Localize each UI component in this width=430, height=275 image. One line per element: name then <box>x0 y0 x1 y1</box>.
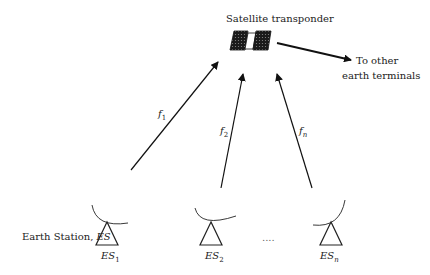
output-label-line1: To other <box>356 56 398 66</box>
station-label-2: ES2 <box>205 251 224 264</box>
uplink-arrow-1 <box>131 62 218 170</box>
earth-station-2-icon <box>195 208 236 245</box>
ellipsis: .... <box>262 233 275 243</box>
output-label-line2: earth terminals <box>342 71 420 81</box>
link-label-f1: f1 <box>158 109 166 122</box>
earth-station-label: Earth Station, ES <box>22 232 111 242</box>
satellite-icon <box>230 31 271 50</box>
station-label-n: ESn <box>320 251 339 264</box>
link-label-f2: f2 <box>220 126 228 139</box>
station-label-1: ES1 <box>101 251 120 264</box>
link-label-fn: fn <box>299 126 307 139</box>
transponder-title: Satellite transponder <box>226 14 334 24</box>
output-arrow <box>277 43 351 60</box>
earth-station-n-icon <box>313 200 345 245</box>
